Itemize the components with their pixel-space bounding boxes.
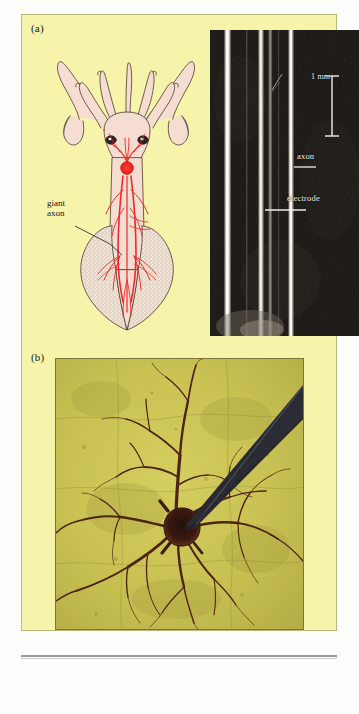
footer-rule (21, 655, 337, 657)
squid-anatomy-drawing: giant axon (44, 30, 211, 336)
panel-a-letter: (a) (31, 22, 44, 34)
panel-b-letter: (b) (31, 351, 44, 363)
giant-axon-label: giant axon (47, 198, 65, 218)
stellate-ganglion-marker (121, 162, 134, 175)
axon-label: axon (297, 151, 314, 161)
scale-bar-label: 1 mm (311, 72, 330, 81)
axon-electrode-micrograph (210, 30, 359, 336)
figure-page: giant axon (0, 0, 359, 714)
giant-axon-label-line2: axon (47, 208, 65, 218)
electrode-label: electrode (287, 193, 320, 203)
stained-neuron-micrograph (55, 358, 304, 630)
giant-axon-label-line1: giant (47, 198, 65, 208)
